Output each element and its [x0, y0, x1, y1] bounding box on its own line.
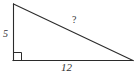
- right-angle-icon: [14, 53, 22, 61]
- triangle-figure: 5 ? 12: [0, 0, 138, 78]
- vertical-leg-label: 5: [3, 29, 8, 39]
- hypotenuse-label: ?: [72, 15, 76, 25]
- horizontal-leg-label: 12: [61, 62, 72, 73]
- hypotenuse-line: [14, 4, 134, 61]
